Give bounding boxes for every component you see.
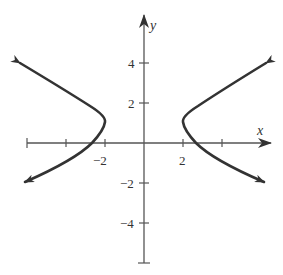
y-axis-label: y [148, 18, 157, 33]
x-axis [27, 138, 271, 148]
x-tick-label-neg2: −2 [93, 153, 107, 168]
y-tick-label-2: 2 [128, 96, 135, 111]
chart-canvas: x y −2 2 4 2 −2 −4 [0, 0, 283, 275]
hyperbola-right-branch [183, 63, 266, 182]
y-tick-label-neg4: −4 [120, 216, 134, 231]
y-axis [138, 15, 150, 263]
hyperbola-graph: x y −2 2 4 2 −2 −4 [0, 0, 283, 275]
y-tick-label-4: 4 [128, 56, 135, 71]
x-tick-label-2: 2 [179, 153, 186, 168]
x-axis-label: x [256, 123, 264, 138]
y-tick-label-neg2: −2 [120, 176, 134, 191]
